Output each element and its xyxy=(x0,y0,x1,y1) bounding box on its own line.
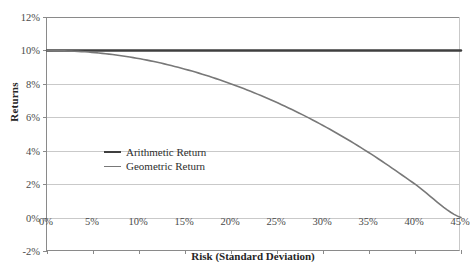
y-tick-label: 6% xyxy=(26,112,40,123)
y-tick-label: 0% xyxy=(26,212,40,223)
x-tick-label: 25% xyxy=(266,216,285,227)
y-tick-label: 2% xyxy=(26,179,40,190)
y-tick-label: -2% xyxy=(23,246,41,257)
x-tick-mark xyxy=(461,250,462,254)
x-tick-label: 5% xyxy=(85,216,99,227)
legend-label-geometric: Geometric Return xyxy=(126,160,205,172)
series-lines xyxy=(47,17,461,251)
x-tick-label: 35% xyxy=(358,216,377,227)
legend-item-arithmetic-return: Arithmetic Return xyxy=(104,146,206,158)
legend-item-geometric-return: Geometric Return xyxy=(104,160,206,172)
x-tick-label: 0% xyxy=(39,216,53,227)
x-axis-title: Risk (Standard Deviation) xyxy=(46,250,460,262)
x-tick-label: 45% xyxy=(450,216,469,227)
legend-swatch-icon-arithmetic xyxy=(104,151,121,153)
plot-area: -2%0%2%4%6%8%10%12% Arithmetic Return Ge… xyxy=(46,17,460,251)
y-tick-label: 10% xyxy=(21,45,40,56)
y-tick-label: 8% xyxy=(26,78,40,89)
x-tick-label: 10% xyxy=(128,216,147,227)
chart-legend: Arithmetic Return Geometric Return xyxy=(104,146,206,172)
x-tick-label: 40% xyxy=(404,216,423,227)
series-line-geometric-return xyxy=(47,50,461,217)
legend-swatch-icon-geometric xyxy=(104,166,121,167)
x-tick-label: 30% xyxy=(312,216,331,227)
y-axis-title: Returns xyxy=(8,62,20,142)
legend-label-arithmetic: Arithmetic Return xyxy=(126,146,206,158)
x-tick-label: 15% xyxy=(174,216,193,227)
x-tick-label: 20% xyxy=(220,216,239,227)
y-tick-label: 4% xyxy=(26,145,40,156)
y-tick-label: 12% xyxy=(21,12,40,23)
